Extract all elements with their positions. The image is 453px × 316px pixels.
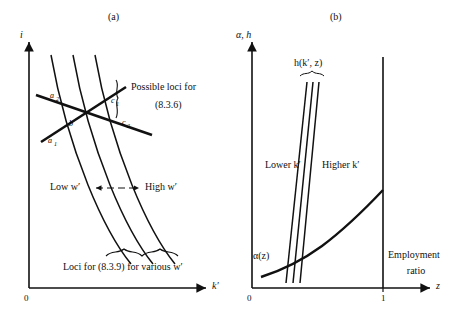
possible-locus-shallow xyxy=(36,95,152,135)
panel-b-y-axis-label: α, h xyxy=(236,30,251,40)
panel-a-y-axis-label: i xyxy=(20,30,23,40)
possible-loci-text-line1: Possible loci for xyxy=(131,82,196,92)
alpha-z-curve xyxy=(261,190,383,277)
possible-loci-brace xyxy=(116,80,118,118)
panel-b-title: (b) xyxy=(330,12,342,22)
employment-ratio-line2: ratio xyxy=(388,266,444,276)
employment-ratio-line1: Employment xyxy=(388,250,440,260)
point-label-a1-sub: 1 xyxy=(54,141,57,147)
panel-a: a 2 a 1 b c 1 c 2 xyxy=(29,42,206,288)
high-w-label: High w′ xyxy=(145,182,177,192)
alpha-z-label: α(z) xyxy=(253,251,269,261)
point-label-a1: a xyxy=(48,136,52,145)
point-label-c2: c xyxy=(122,118,126,127)
panel-b-x-axis-label: z xyxy=(436,281,440,291)
panel-a-origin-label: 0 xyxy=(24,294,29,303)
possible-loci-text-line2: (8.3.6) xyxy=(155,100,182,110)
point-label-b: b xyxy=(69,119,73,128)
low-w-label: Low w′ xyxy=(50,182,80,192)
lower-k-label: Lower k′ xyxy=(265,160,301,170)
locus-8.3.9-low-w xyxy=(51,55,131,264)
point-label-c1: c xyxy=(111,96,115,105)
loci-caption: Loci for (8.3.9) for various w′ xyxy=(63,262,183,272)
panel-a-title: (a) xyxy=(108,12,119,22)
panel-b-tick-one-label: 1 xyxy=(381,294,386,303)
point-label-a2: a xyxy=(50,91,54,100)
panel-b-origin-label: 0 xyxy=(247,294,252,303)
h-function-brace xyxy=(300,71,324,76)
panel-a-x-axis-label: k′ xyxy=(212,281,219,291)
point-label-c2-sub: 2 xyxy=(127,123,130,129)
point-label-a2-sub: 2 xyxy=(56,96,59,102)
higher-k-label: Higher k′ xyxy=(322,160,359,170)
h-function-label: h(k′, z) xyxy=(294,58,322,68)
